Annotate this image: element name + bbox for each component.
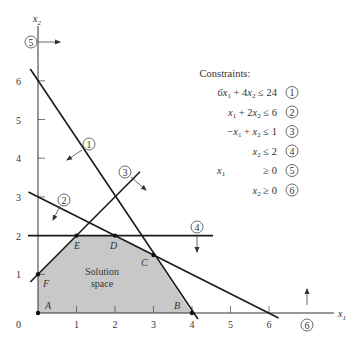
- vertex-label-c: C: [141, 257, 148, 268]
- svg-text:1: 1: [290, 87, 295, 98]
- origin-label: 0: [16, 319, 21, 330]
- svg-text:4: 4: [195, 222, 200, 233]
- vertex-label-d: D: [109, 240, 118, 251]
- y-tick-label: 6: [16, 76, 21, 87]
- x-tick-label: 5: [228, 319, 233, 330]
- svg-text:x2 ≤ 2: x2 ≤ 2: [252, 146, 277, 159]
- y-axis-label: x2: [32, 13, 41, 27]
- svg-text:2: 2: [62, 195, 67, 206]
- vertex-label-e: E: [73, 240, 80, 251]
- constraints-legend: Constraints: 6x1 + 4x2 ≤ 24 1 x1 + 2x2 ≤…: [200, 68, 298, 198]
- vertex-label-a: A: [44, 300, 52, 311]
- constraint-row-3: −x1 + x2 ≤ 1 3: [227, 126, 298, 140]
- region-label-line1: Solution: [85, 266, 119, 277]
- vertex-label-f: F: [42, 278, 50, 289]
- svg-text:2: 2: [290, 107, 295, 118]
- constraint-marker-1: 1: [67, 138, 95, 160]
- svg-text:x2 ≥ 0: x2 ≥ 0: [252, 185, 277, 198]
- constraint-row-4: x2 ≤ 2 4: [252, 145, 298, 159]
- vertex-label-b: B: [174, 300, 180, 311]
- constraint-marker-5: 5: [25, 36, 60, 48]
- svg-text:x1: x1: [216, 165, 226, 178]
- x-tick-label: 3: [151, 319, 156, 330]
- constraint-row-6: x2 ≥ 0 6: [252, 184, 298, 198]
- svg-text:5: 5: [29, 37, 34, 48]
- svg-text:3: 3: [123, 167, 128, 178]
- x-axis-label: x1: [337, 308, 346, 322]
- y-tick-label: 4: [16, 153, 21, 164]
- svg-text:6x1 + 4x2 ≤ 24: 6x1 + 4x2 ≤ 24: [217, 87, 277, 100]
- y-tick-label: 1: [16, 269, 21, 280]
- svg-text:≥ 0: ≥ 0: [263, 165, 277, 176]
- x-tick-label: 4: [190, 319, 195, 330]
- y-ticks: [38, 81, 45, 274]
- y-tick-label: 2: [16, 231, 21, 242]
- constraint-row-1: 6x1 + 4x2 ≤ 24 1: [217, 87, 298, 101]
- constraint-marker-3: 3: [119, 166, 146, 190]
- y-tick-label: 5: [16, 115, 21, 126]
- svg-text:4: 4: [290, 146, 295, 157]
- x-tick-label: 6: [267, 319, 272, 330]
- svg-text:−x1 + x2 ≤ 1: −x1 + x2 ≤ 1: [227, 126, 277, 139]
- constraint-marker-6: 6: [301, 289, 313, 331]
- region-label-line2: space: [91, 278, 114, 289]
- constraint-row-5: x1 ≥ 0 5: [216, 165, 298, 179]
- constraint-marker-4: 4: [191, 221, 203, 252]
- svg-text:3: 3: [290, 126, 295, 137]
- svg-text:1: 1: [87, 139, 92, 150]
- x-tick-label: 1: [74, 319, 79, 330]
- svg-text:6: 6: [305, 320, 310, 331]
- svg-text:5: 5: [290, 165, 295, 176]
- constraints-title: Constraints:: [200, 68, 251, 79]
- x-tick-label: 2: [113, 319, 118, 330]
- svg-text:6: 6: [290, 185, 295, 196]
- y-tick-label: 3: [16, 192, 21, 203]
- constraint-marker-2: 2: [53, 194, 70, 220]
- lp-diagram: 0 1 2 3 4 5 6 1 2 3 4 5 6 x2 x1 A B C D …: [0, 0, 359, 344]
- svg-text:x1 + 2x2 ≤ 6: x1 + 2x2 ≤ 6: [227, 107, 277, 120]
- constraint-row-2: x1 + 2x2 ≤ 6 2: [227, 106, 298, 120]
